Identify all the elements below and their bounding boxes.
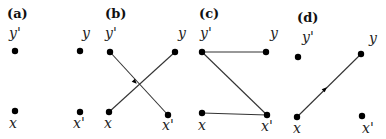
node-label-y-prime: y': [301, 29, 314, 45]
node-label-x: x: [293, 120, 301, 136]
node-label-y: y: [269, 25, 279, 41]
node-label-y-prime: y': [199, 25, 212, 41]
panel-c: (c)y'yxx': [198, 6, 279, 134]
node-y: [263, 49, 269, 55]
edge-x-to-x-prime: [202, 113, 267, 115]
edge-y-prime-to-x-prime: [110, 52, 168, 115]
node-label-y-prime: y': [8, 25, 21, 41]
node-label-x-prime: x': [162, 117, 174, 133]
node-y-prime: [199, 49, 205, 55]
node-x-prime: [359, 113, 365, 119]
graph-panels: (a)y'yxx'(b)y'yxx'(c)y'yxx'(d)y'yxx': [0, 0, 386, 139]
node-y: [77, 48, 83, 54]
panel-label-d: (d): [297, 10, 318, 25]
panel-b: (b)y'yxx': [104, 6, 187, 133]
node-y-prime: [107, 49, 113, 55]
node-y-prime: [12, 48, 18, 54]
panel-a: (a)y'yxx': [7, 6, 91, 131]
node-x: [12, 108, 18, 114]
panel-label-a: (a): [7, 6, 28, 21]
node-y-prime: [295, 54, 301, 60]
node-label-x-prime: x': [73, 115, 85, 131]
node-x: [199, 110, 205, 116]
node-label-x: x: [104, 115, 112, 131]
node-label-y-prime: y': [104, 25, 117, 41]
node-label-x: x: [9, 115, 17, 131]
panel-label-b: (b): [105, 6, 126, 21]
edge-y-prime-to-x-prime: [202, 52, 267, 115]
node-label-x-prime: x': [261, 118, 273, 134]
panel-label-c: (c): [199, 6, 219, 21]
diagram-canvas: (a)y'yxx'(b)y'yxx'(c)y'yxx'(d)y'yxx': [0, 0, 386, 139]
node-label-y: y: [81, 25, 91, 41]
node-label-x-prime: x': [362, 120, 374, 136]
panel-d: (d)y'yxx': [293, 10, 378, 136]
node-y: [172, 49, 178, 55]
node-y: [358, 51, 364, 57]
node-label-x: x: [198, 117, 206, 133]
node-label-y: y: [177, 25, 187, 41]
node-label-y: y: [368, 30, 378, 46]
edge-x-to-y: [297, 54, 361, 117]
